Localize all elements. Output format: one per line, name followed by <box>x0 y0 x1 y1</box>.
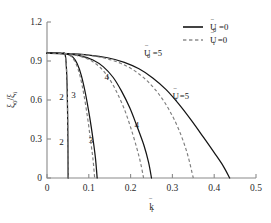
y-tick-label: 1.2 <box>30 17 42 27</box>
annotation-text: U‾i =5 <box>172 88 189 102</box>
curve-U05-solid <box>47 53 230 178</box>
figure-container: 00.30.60.91.200.10.20.30.40.5 223344U‾0 … <box>0 0 271 223</box>
curves-group <box>47 53 230 178</box>
curve-label-ui-5: U‾i =5 <box>172 88 189 102</box>
x-tick-label: 0.5 <box>250 183 262 193</box>
x-tick-label: 0.4 <box>208 183 220 193</box>
curve-2-solid <box>47 53 68 178</box>
curve-label-4-upper: 4 <box>105 72 110 82</box>
curve-label-3-lower: 3 <box>89 135 94 145</box>
y-tick-label: 0 <box>37 173 42 183</box>
curve-label-u0-5: U‾0 =5 <box>144 45 162 59</box>
x-tick-label: 0.1 <box>83 183 95 193</box>
y-tick-label: 0.6 <box>30 95 42 105</box>
x-tick-label: 0 <box>45 183 50 193</box>
axis-lines <box>47 22 256 178</box>
y-tick-label: 0.3 <box>30 134 42 144</box>
curve-label-4-lower: 4 <box>135 120 140 130</box>
curve-Ui5-dashed <box>47 53 193 178</box>
curve-label-2-upper: 2 <box>59 92 64 102</box>
curve-label-3-upper: 3 <box>71 90 76 100</box>
x-tick-label: 0.3 <box>166 183 178 193</box>
x-tick-label: 0.2 <box>125 183 137 193</box>
y-tick-label: 0.9 <box>30 56 42 66</box>
annotation-text: U‾0 =5 <box>144 45 162 59</box>
axis-titles-group: k‾rξ0/ξi <box>6 92 154 213</box>
legend-label-i: U‾i =0 <box>210 32 228 46</box>
chart-canvas: 00.30.60.91.200.10.20.30.40.5 223344U‾0 … <box>0 0 271 223</box>
y-axis-title: ξ0/ξi <box>6 92 18 108</box>
curve-label-2-lower: 2 <box>59 137 64 147</box>
x-axis-title: k‾r <box>148 198 154 213</box>
axes-group: 00.30.60.91.200.10.20.30.40.5 <box>30 17 262 193</box>
curve-3-dashed <box>47 53 95 178</box>
curve-3-solid <box>47 53 97 178</box>
curve-2-dashed <box>47 53 68 178</box>
y-axis-title-text: ξ0/ξi <box>6 92 18 108</box>
legend-group: U‾0 =0U‾i =0 <box>183 19 229 46</box>
